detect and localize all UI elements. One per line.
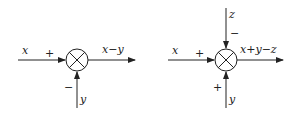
output-label: x+y−z — [240, 43, 277, 56]
summing-circle-icon — [66, 49, 88, 71]
input-y-label: y — [228, 93, 236, 106]
input-x-sign: + — [195, 47, 204, 60]
summing-junction-diagrams: x + x−y y − x + z − x+y−z y + — [0, 0, 298, 113]
input-x-sign: + — [45, 47, 54, 60]
summing-junction-1: x + x−y y − — [18, 43, 135, 108]
input-x-label: x — [22, 44, 29, 57]
input-z-label: z — [228, 8, 235, 21]
summing-circle-icon — [215, 49, 237, 71]
input-y-sign: + — [213, 81, 222, 94]
output-label: x−y — [102, 43, 124, 56]
summing-junction-2: x + z − x+y−z y + — [168, 8, 283, 108]
input-y-label: y — [79, 93, 87, 106]
input-z-sign: − — [230, 27, 239, 40]
input-x-label: x — [172, 44, 179, 57]
input-y-sign: − — [64, 81, 73, 94]
